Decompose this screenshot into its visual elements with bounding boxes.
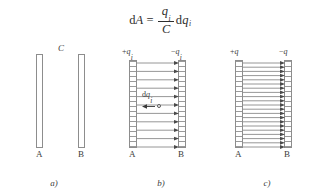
panel-b-left-plate-label: A (129, 150, 136, 159)
panel-a-left-plate (36, 54, 43, 148)
panel-b-left-charge-sub: i (131, 53, 133, 62)
formula-rhs-variable: q (182, 13, 188, 28)
panel-b-caption: b) (108, 178, 214, 188)
panel-a-right-plate-label: B (78, 150, 84, 159)
panel-b-charge-motion-arrow (142, 103, 156, 110)
panel-a-stage: C A B (0, 46, 108, 158)
panel-b-left-charge-var: q (127, 47, 131, 56)
panel-c-right-plate (284, 60, 292, 148)
panel-c-field-lines (243, 60, 285, 150)
panel-c-left-plate-label: A (235, 150, 242, 159)
panel-a-caption: a) (0, 178, 108, 188)
panel-a-right-plate (78, 54, 85, 148)
panel-b-charge-element-marker (157, 104, 161, 108)
formula-numerator: qi (159, 5, 174, 21)
panel-c-caption: c) (214, 178, 320, 188)
capacitor-work-formula: dA = qi C dqi (129, 5, 191, 36)
formula-container: dA = qi C dqi (0, 2, 320, 38)
panel-b-right-plate (178, 60, 186, 148)
diagram-panel-a: C A B a) (0, 46, 108, 190)
panel-a-left-plate-label: A (36, 150, 43, 159)
panel-c-left-charge-var: q (235, 47, 239, 56)
panel-b-right-charge-sub: i (180, 53, 182, 62)
formula-numerator-subscript: i (169, 14, 171, 23)
panel-a-capacitance-label: C (58, 44, 64, 53)
panel-b-right-charge-label: −qi (171, 48, 182, 58)
panel-c-left-plate (235, 60, 243, 148)
formula-numerator-variable: q (162, 4, 168, 18)
formula-rhs-subscript: i (189, 19, 191, 28)
panel-b-stage: +qi −qi dqi A B (108, 46, 214, 158)
panel-b-right-charge-var: q (176, 47, 180, 56)
formula-fraction: qi C (158, 5, 174, 36)
panel-c-right-charge-label: −q (279, 48, 288, 56)
diagram-panel-b: +qi −qi dqi A B b) (108, 46, 214, 190)
panel-b-right-plate-label: B (178, 150, 184, 159)
panel-c-right-plate-label: B (284, 150, 290, 159)
formula-lhs-variable: A (136, 13, 144, 28)
formula-denominator: C (159, 22, 174, 36)
panel-b-left-charge-label: +qi (122, 48, 133, 58)
panel-c-left-charge-label: +q (230, 48, 239, 56)
formula-equals-sign: = (146, 13, 153, 28)
diagram-panel-c: +q −q A B c) (214, 46, 320, 190)
panel-b-charge-element-label: dqi (142, 91, 152, 101)
panel-b-left-plate (129, 60, 137, 148)
panel-c-stage: +q −q A B (214, 46, 320, 158)
panel-c-right-charge-var: q (284, 47, 288, 56)
